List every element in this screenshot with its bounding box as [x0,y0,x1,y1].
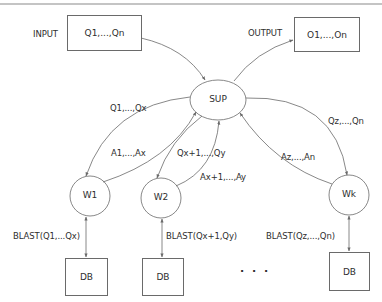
output-box-text: O1,...,On [307,30,347,40]
edge-sup-to-w2 [157,116,202,178]
w1-node-label: W1 [76,190,104,200]
edge-sup-to-wk [246,98,347,175]
db-box-wk-text: DB [343,267,356,277]
edge-label-wk-query: Qz,...,Qn [328,116,364,126]
db-box-w1: DB [65,258,108,296]
supervisor-worker-diagram: INPUT Q1,...,Qn OUTPUT O1,...,On SUP Q1,… [0,0,382,302]
input-box-text: Q1,...,Qn [85,28,125,38]
edge-w1-to-sup [103,112,196,182]
w2-node-label: W2 [147,192,175,202]
edge-label-w2-answer: Ax+1,...,Ay [200,172,246,182]
input-box: Q1,...,Qn [67,15,142,51]
edge-label-w1-answer: A1,...,Ax [111,148,146,158]
edge-label-w2-query: Qx+1,...,Qy [177,148,225,158]
output-label: OUTPUT [248,28,282,38]
db-box-wk: DB [329,252,370,291]
input-label: INPUT [33,29,58,39]
blast-label-w2: BLAST(Qx+1,Qy) [166,231,237,241]
wk-node-label: Wk [335,189,363,199]
sup-node-label: SUP [204,94,232,104]
db-box-w2-text: DB [156,272,169,282]
blast-label-wk: BLAST(Qz,...,Qn) [266,231,335,241]
edge-wk-to-sup [240,113,332,184]
edge-input-to-sup [141,38,205,80]
edge-label-wk-answer: Az,...,An [281,152,315,162]
edge-sup-to-output [234,40,293,81]
db-box-w2: DB [142,258,184,296]
blast-label-w1: BLAST(Q1,...Qx) [13,231,80,241]
edge-label-w1-query: Q1,...,Qx [110,103,146,113]
output-box: O1,...,On [294,17,360,52]
more-workers-ellipsis: . . . [240,262,270,275]
db-box-w1-text: DB [80,272,93,282]
